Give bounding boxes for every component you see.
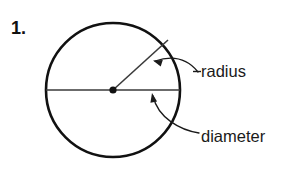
radius-label: radius [201, 62, 246, 80]
diagram-canvas: 1. radius diameter [0, 0, 292, 169]
diameter-arrowhead-icon [150, 93, 157, 103]
diameter-label: diameter [201, 127, 265, 145]
radius-arrowhead-icon [153, 60, 163, 66]
center-point-dot [109, 86, 116, 93]
